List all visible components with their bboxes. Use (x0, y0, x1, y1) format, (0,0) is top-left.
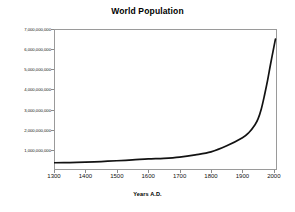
x-axis-tick-label: 1400 (70, 173, 100, 180)
x-axis-tick-mark (85, 170, 86, 173)
x-axis-tick-mark (242, 170, 243, 173)
x-axis: 13001400150016001700180019002000 (0, 0, 295, 212)
x-axis-tick-mark (180, 170, 181, 173)
x-axis-tick-label: 1700 (165, 173, 195, 180)
chart-figure: World Population 1,000,000,0002,000,000,… (0, 0, 295, 212)
x-axis-tick-label: 1900 (227, 173, 257, 180)
x-axis-tick-label: 1500 (102, 173, 132, 180)
x-axis-tick-label: 1800 (196, 173, 226, 180)
x-axis-tick-mark (148, 170, 149, 173)
x-axis-tick-label: 2000 (259, 173, 289, 180)
x-axis-tick-label: 1600 (133, 173, 163, 180)
x-axis-title: Years A.D. (0, 191, 295, 197)
x-axis-tick-mark (117, 170, 118, 173)
x-axis-tick-mark (211, 170, 212, 173)
x-axis-tick-mark (274, 170, 275, 173)
x-axis-tick-mark (54, 170, 55, 173)
x-axis-tick-label: 1300 (39, 173, 69, 180)
